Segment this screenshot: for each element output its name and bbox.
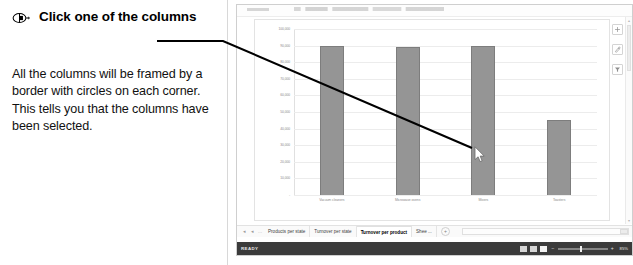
bars-group: Vacuum cleanersMicrowave ovensMixersToas… <box>294 29 597 195</box>
x-axis-tick-label: Mixers <box>445 198 521 202</box>
worksheet-canvas[interactable]: -10,00020,00030,00040,00050,00060,00070,… <box>237 5 632 227</box>
scroll-up-button[interactable]: ▴ <box>626 17 632 24</box>
chart-filters-button[interactable] <box>612 64 623 75</box>
horizontal-scrollbar[interactable] <box>462 228 629 235</box>
instruction-heading-row: Click one of the columns <box>12 8 222 26</box>
status-bar-right-group: − + 85% <box>520 246 628 252</box>
zoom-slider[interactable]: − + <box>552 246 614 252</box>
x-axis-tick-label: Microwave ovens <box>370 198 446 202</box>
page-layout-view-button[interactable] <box>530 246 537 252</box>
x-axis-tick-label: Vacuum cleaners <box>294 198 370 202</box>
y-axis-tick-label: 40,000 <box>280 127 290 131</box>
instruction-body: All the columns will be framed by a bord… <box>12 66 218 136</box>
mouse-click-icon <box>12 12 30 24</box>
vertical-scrollbar[interactable]: ▴ ▾ <box>625 17 632 224</box>
instruction-title: Click one of the columns <box>39 8 196 26</box>
y-axis-tick-label: 60,000 <box>280 93 290 97</box>
bar-wrapper: Microwave ovens <box>396 29 420 195</box>
gridline <box>294 195 597 196</box>
sheet-tabs-group: Products per stateTurnover per stateTurn… <box>264 226 437 237</box>
excel-window: -10,00020,00030,00040,00050,00060,00070,… <box>236 4 633 256</box>
funnel-filter-icon <box>614 66 621 73</box>
bar-wrapper: Vacuum cleaners <box>320 29 344 195</box>
bar-slot[interactable]: Microwave ovens <box>370 29 446 195</box>
sheet-nav-prev-button[interactable]: ◂ <box>248 229 256 234</box>
x-axis-tick-label: Toasters <box>521 198 597 202</box>
page-break-view-button[interactable] <box>540 246 547 252</box>
y-axis-tick-label: 50,000 <box>280 110 290 114</box>
screenshot-root: Click one of the columns All the columns… <box>0 0 633 265</box>
vertical-scrollbar-thumb[interactable] <box>627 25 631 71</box>
y-axis-tick-label: - <box>289 193 290 197</box>
y-axis-tick-label: 70,000 <box>280 77 290 81</box>
sheet-tab-3[interactable]: Shee ... <box>412 226 437 237</box>
sheet-tab-bar: ◂ ◂ … Products per stateTurnover per sta… <box>237 225 632 237</box>
bar[interactable] <box>547 120 571 195</box>
scroll-down-button[interactable]: ▾ <box>626 217 632 224</box>
worksheet-row-marker <box>247 8 269 11</box>
y-axis-tick-label: 80,000 <box>280 60 290 64</box>
add-sheet-button[interactable]: + <box>441 227 450 236</box>
y-axis-tick-label: 30,000 <box>280 143 290 147</box>
view-buttons-group <box>520 246 547 252</box>
bar-slot[interactable]: Mixers <box>446 29 522 195</box>
chart-plot-area: -10,00020,00030,00040,00050,00060,00070,… <box>294 29 597 195</box>
plus-icon <box>614 26 621 33</box>
y-axis-tick-label: 10,000 <box>280 176 290 180</box>
bar-slot[interactable]: Toasters <box>521 29 597 195</box>
sheet-nav-first-button[interactable]: ◂ <box>240 229 248 234</box>
zoom-slider-track[interactable] <box>558 248 608 249</box>
bar[interactable] <box>320 46 344 195</box>
zoom-slider-thumb[interactable] <box>580 246 582 252</box>
chart-object[interactable]: -10,00020,00030,00040,00050,00060,00070,… <box>254 19 610 221</box>
bar-wrapper: Mixers <box>471 29 495 195</box>
status-bar: READY − + 85% <box>237 242 632 255</box>
paintbrush-icon <box>614 46 621 53</box>
bar[interactable] <box>396 47 420 195</box>
sheet-tab-2[interactable]: Turnover per product <box>357 226 412 237</box>
zoom-in-button[interactable]: + <box>611 246 614 251</box>
sheet-tab-0[interactable]: Products per state <box>264 226 310 237</box>
bar[interactable] <box>471 46 495 195</box>
zoom-out-button[interactable]: − <box>552 246 555 251</box>
chart-side-buttons <box>612 24 623 75</box>
worksheet-top-strip <box>237 5 632 17</box>
zoom-level-value: 85% <box>620 246 628 251</box>
sheet-nav-more-button[interactable]: … <box>256 229 264 234</box>
instruction-panel: Click one of the columns All the columns… <box>0 0 228 265</box>
sheet-tab-1[interactable]: Turnover per state <box>310 226 356 237</box>
bar-slot[interactable]: Vacuum cleaners <box>294 29 370 195</box>
y-axis-tick-label: 20,000 <box>280 160 290 164</box>
worksheet-header-text-blur <box>294 7 444 11</box>
y-axis-tick-label: 100,000 <box>278 27 290 31</box>
status-text: READY <box>241 246 258 251</box>
y-axis-tick-label: 90,000 <box>280 44 290 48</box>
bar-wrapper: Toasters <box>547 29 571 195</box>
chart-elements-button[interactable] <box>612 24 623 35</box>
mouse-pointer-cursor <box>474 146 486 163</box>
horizontal-scrollbar-thumb[interactable] <box>620 229 628 234</box>
normal-view-button[interactable] <box>520 246 527 252</box>
chart-styles-button[interactable] <box>612 44 623 55</box>
